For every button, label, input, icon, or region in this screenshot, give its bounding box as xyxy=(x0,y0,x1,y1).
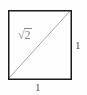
right-side-length-label: 1 xyxy=(75,40,81,51)
bottom-side-length-label: 1 xyxy=(35,82,41,93)
geometry-figure: √2 1 1 xyxy=(0,0,87,95)
radicand-value: 2 xyxy=(24,28,32,41)
figure-canvas xyxy=(0,0,87,95)
diagonal-length-label: √2 xyxy=(18,28,32,41)
radical-group: √2 xyxy=(18,28,32,41)
diagonal-line xyxy=(9,11,71,79)
square-outline xyxy=(9,11,72,80)
